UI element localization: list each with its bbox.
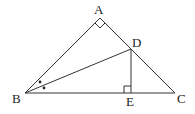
triangle-diagram: A B C D E xyxy=(0,0,195,114)
angle-dot-2 xyxy=(43,87,46,90)
right-angle-mark-a xyxy=(95,23,105,28)
angle-dot-1 xyxy=(39,81,42,84)
right-angle-mark-e xyxy=(124,86,131,93)
label-a: A xyxy=(94,2,104,17)
segment-ac xyxy=(100,18,175,93)
segment-bd xyxy=(25,49,131,93)
segment-ab xyxy=(25,18,100,93)
label-e: E xyxy=(126,94,134,109)
label-b: B xyxy=(12,91,21,106)
label-c: C xyxy=(177,91,186,106)
label-d: D xyxy=(132,35,141,50)
